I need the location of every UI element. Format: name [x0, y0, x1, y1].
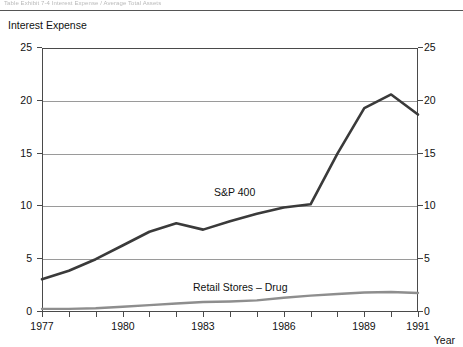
y-tick-right-10 — [418, 205, 423, 206]
y-tick-label-right-20: 20 — [424, 95, 454, 106]
x-tick-1991 — [418, 312, 419, 317]
y-tick-right-5 — [418, 258, 423, 259]
x-tick-1989 — [364, 312, 365, 317]
series-label-retail: Retail Stores – Drug — [193, 281, 288, 293]
y-tick-label-left-10: 10 — [2, 200, 32, 211]
x-tick-label-1991: 1991 — [395, 320, 441, 332]
x-tick-label-1980: 1980 — [100, 320, 146, 332]
y-tick-label-left-0: 0 — [2, 306, 32, 317]
y-tick-label-right-5: 5 — [424, 253, 454, 264]
y-tick-left-10 — [37, 205, 42, 206]
x-tick-1986 — [284, 312, 285, 317]
x-axis-title: Year — [434, 334, 455, 346]
x-tick-1987 — [311, 312, 312, 317]
y-tick-left-20 — [37, 100, 42, 101]
x-tick-1985 — [257, 312, 258, 317]
x-tick-1988 — [337, 312, 338, 317]
y-tick-label-left-5: 5 — [2, 253, 32, 264]
gridline-y-20 — [43, 101, 417, 102]
y-tick-right-25 — [418, 47, 423, 48]
gridline-y-15 — [43, 154, 417, 155]
header-rule-divider — [0, 10, 463, 11]
gridline-y-5 — [43, 259, 417, 260]
x-tick-1982 — [176, 312, 177, 317]
x-tick-1977 — [42, 312, 43, 317]
chart-caption: Interest Expense — [8, 19, 87, 32]
x-tick-label-1986: 1986 — [261, 320, 307, 332]
running-head-ghost-text: Table Exhibit 7-4 Interest Expense / Ave… — [4, 0, 384, 7]
y-tick-label-left-20: 20 — [2, 95, 32, 106]
x-tick-1979 — [96, 312, 97, 317]
y-tick-left-15 — [37, 153, 42, 154]
y-tick-left-5 — [37, 258, 42, 259]
x-tick-label-1989: 1989 — [341, 320, 387, 332]
y-tick-label-right-10: 10 — [424, 200, 454, 211]
x-tick-1990 — [391, 312, 392, 317]
x-tick-1983 — [203, 312, 204, 317]
y-tick-right-15 — [418, 153, 423, 154]
x-tick-1978 — [69, 312, 70, 317]
x-tick-label-1983: 1983 — [180, 320, 226, 332]
y-tick-label-left-25: 25 — [2, 42, 32, 53]
y-tick-right-20 — [418, 100, 423, 101]
y-tick-label-right-25: 25 — [424, 42, 454, 53]
plot-area — [42, 48, 418, 312]
y-tick-label-left-15: 15 — [2, 148, 32, 159]
series-label-sp400: S&P 400 — [214, 186, 255, 198]
gridline-y-10 — [43, 206, 417, 207]
x-tick-1980 — [123, 312, 124, 317]
x-tick-1981 — [149, 312, 150, 317]
y-tick-label-right-15: 15 — [424, 148, 454, 159]
y-tick-left-25 — [37, 47, 42, 48]
x-tick-1984 — [230, 312, 231, 317]
x-tick-label-1977: 1977 — [19, 320, 65, 332]
y-tick-label-right-0: 0 — [424, 306, 454, 317]
